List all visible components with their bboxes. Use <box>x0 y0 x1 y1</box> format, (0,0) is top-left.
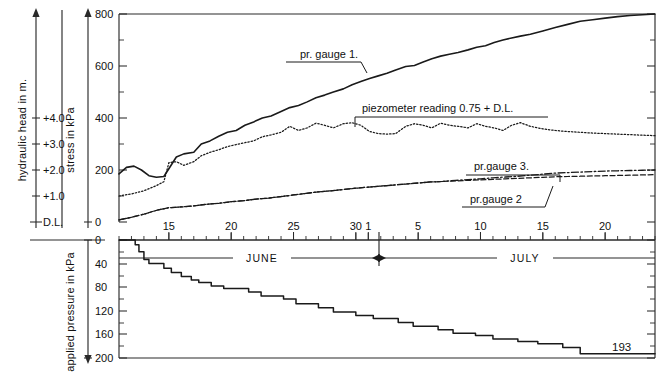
annotation-pr-gauge-2: pr.gauge 2 <box>462 186 553 207</box>
stress-tick-200: 200 <box>95 164 113 176</box>
chart-figure: hydraulic head in m. stress in kPa appli… <box>0 0 668 372</box>
ap-tick-80: 80 <box>95 281 107 293</box>
ap-tick-40: 40 <box>95 258 107 270</box>
time-minor-ticks <box>119 233 655 240</box>
time-major-ticks <box>169 232 605 240</box>
time-tick-label: 25 <box>287 220 299 232</box>
time-tick-label: 15 <box>537 220 549 232</box>
month-label-july: JULY <box>510 252 539 264</box>
series-pr-gauge-3 <box>119 170 655 220</box>
series-pr-gauge-1 <box>119 14 655 177</box>
time-tick-label: 30 <box>350 220 362 232</box>
time-tick-label: 20 <box>599 220 611 232</box>
head-tick-4: +4.0 <box>43 112 65 124</box>
stress-tick-600: 600 <box>95 60 113 72</box>
lower-curves <box>119 240 655 354</box>
upper-plot-frame <box>119 14 655 240</box>
stress-tick-labels: 800 600 400 200 0 <box>95 8 113 228</box>
ap-tick-0: 0 <box>95 234 101 246</box>
time-tick-labels: 1520253015101520 <box>163 220 612 232</box>
applied-pressure-tick-labels: 0 40 80 120 160 200 <box>95 234 113 364</box>
time-tick-label: 5 <box>415 220 421 232</box>
ap-tick-160: 160 <box>95 328 113 340</box>
stress-tick-800: 800 <box>95 8 113 20</box>
pr-gauge-2-label: pr.gauge 2 <box>470 193 522 205</box>
pr-gauge-1-label: pr. gauge 1. <box>300 48 358 60</box>
series-pr-gauge-2 <box>119 175 655 220</box>
hydraulic-head-axis <box>30 8 42 228</box>
chart-svg: hydraulic head in m. stress in kPa appli… <box>0 0 668 372</box>
annotation-piezometer: piezometer reading 0.75 + D.L. <box>355 102 548 127</box>
month-bar: JUNE JULY <box>119 232 655 266</box>
ap-tick-200: 200 <box>95 352 113 364</box>
head-tick-1: +1.0 <box>43 190 65 202</box>
pr-gauge-3-label: pr.gauge 3. <box>474 160 529 172</box>
upper-left-ticks <box>119 14 127 222</box>
stress-axis-title: stress in kPa <box>64 107 76 173</box>
head-tick-datum: D.L. <box>43 216 63 228</box>
head-tick-3: +3.0 <box>43 138 65 150</box>
piezometer-label: piezometer reading 0.75 + D.L. <box>362 102 513 114</box>
head-tick-2: +2.0 <box>43 164 65 176</box>
time-tick-label: 20 <box>225 220 237 232</box>
applied-pressure-axis <box>84 240 92 364</box>
stress-tick-0: 0 <box>95 216 101 228</box>
month-label-june: JUNE <box>246 252 278 264</box>
series-applied-pressure <box>119 240 655 354</box>
ap-tick-120: 120 <box>95 305 113 317</box>
final-pressure-value: 193 <box>612 341 631 353</box>
stress-tick-400: 400 <box>95 112 113 124</box>
annotation-pr-gauge-1: pr. gauge 1. <box>286 48 367 73</box>
stress-axis <box>84 8 92 228</box>
time-tick-label: 15 <box>163 220 175 232</box>
applied-pressure-axis-title: applied pressure in kPa <box>64 252 76 372</box>
hydraulic-head-axis-title: hydraulic head in m. <box>16 79 28 181</box>
time-tick-label: 1 <box>365 220 371 232</box>
upper-right-ticks <box>647 14 655 222</box>
time-tick-label: 10 <box>474 220 486 232</box>
